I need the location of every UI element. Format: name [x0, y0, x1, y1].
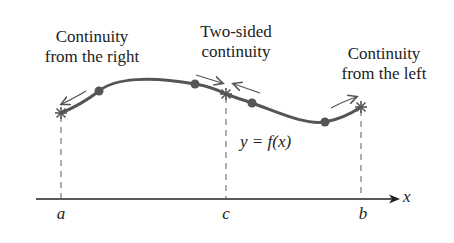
- function-label: y = f(x): [240, 132, 291, 152]
- label-two-sided: Two-sided continuity: [188, 22, 284, 62]
- arrow-right-to-c-icon: [234, 84, 260, 93]
- function-curve: [61, 79, 361, 122]
- arrow-left-approach-icon: [331, 97, 356, 108]
- x-axis-label: x: [403, 187, 411, 207]
- label-line: Continuity: [326, 44, 442, 64]
- star-icon-a: [55, 107, 67, 119]
- curve-point: [321, 118, 330, 127]
- continuity-diagram: Continuity from the right Two-sided cont…: [0, 0, 454, 243]
- tick-label-b: b: [356, 204, 370, 224]
- star-icon-b: [355, 101, 367, 113]
- label-line: Two-sided: [188, 22, 284, 42]
- curve-point: [95, 87, 104, 96]
- dashed-guides: [61, 97, 361, 198]
- label-continuity-right: Continuity from the right: [30, 27, 154, 67]
- star-icon-c: [220, 88, 232, 100]
- tick-label-c: c: [219, 204, 233, 224]
- label-line: continuity: [188, 42, 284, 62]
- label-continuity-left: Continuity from the left: [326, 44, 442, 84]
- label-line: from the right: [30, 47, 154, 67]
- label-line: from the left: [326, 64, 442, 84]
- label-line: Continuity: [30, 27, 154, 47]
- curve-point: [191, 80, 200, 89]
- arrow-left-to-c-icon: [196, 75, 222, 83]
- curve-point: [248, 99, 257, 108]
- tick-label-a: a: [54, 204, 68, 224]
